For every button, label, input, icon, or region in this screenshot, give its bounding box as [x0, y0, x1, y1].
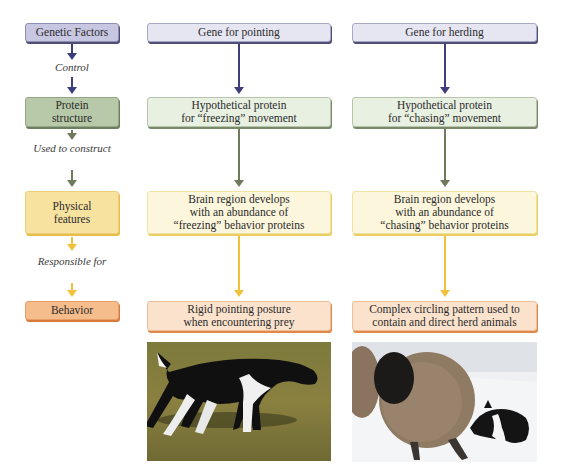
protein-freezing-line2: for “freezing” movement: [181, 112, 297, 125]
gene-pointing-box: Gene for pointing: [147, 23, 331, 42]
arrow-down-icon: [238, 44, 240, 92]
arrow-down-icon: [71, 77, 73, 92]
pointing-behavior-line2: when encountering prey: [183, 316, 294, 329]
pointing-dog-photo: [147, 342, 331, 461]
arrow-down-icon: [444, 44, 446, 92]
protein-structure-box: Protein structure: [25, 97, 119, 127]
herding-behavior-line2: contain and direct herd animals: [372, 316, 516, 329]
protein-chasing-line1: Hypothetical protein: [397, 99, 492, 112]
genetic-factors-box: Genetic Factors: [25, 23, 119, 42]
protein-chasing-line2: for “chasing” movement: [388, 112, 501, 125]
connector-responsible-for: Responsible for: [35, 255, 109, 268]
protein-structure-label: Protein structure: [42, 99, 102, 125]
brain-chasing-line1: Brain region develops: [394, 193, 496, 206]
physical-features-label: Physical features: [42, 200, 102, 226]
brain-region-chasing-box: Brain region develops with an abundance …: [352, 191, 537, 234]
brain-freezing-line3: “freezing” behavior proteins: [174, 219, 305, 232]
arrow-down-icon: [71, 44, 73, 58]
arrow-down-icon: [71, 130, 73, 138]
behavior-label: Behavior: [51, 304, 93, 317]
brain-freezing-line2: with an abundance of: [190, 206, 289, 219]
protein-freezing-line1: Hypothetical protein: [192, 99, 287, 112]
gene-herding-box: Gene for herding: [352, 23, 537, 42]
pointing-behavior-box: Rigid pointing posture when encountering…: [147, 301, 331, 331]
arrow-down-icon: [71, 170, 73, 185]
behavior-box: Behavior: [25, 301, 119, 320]
protein-freezing-box: Hypothetical protein for “freezing” move…: [147, 97, 331, 127]
herding-dog-photo: [352, 342, 537, 462]
arrow-down-icon: [238, 236, 240, 295]
brain-region-freezing-box: Brain region develops with an abundance …: [147, 191, 331, 234]
protein-chasing-box: Hypothetical protein for “chasing” movem…: [352, 97, 537, 127]
connector-control: Control: [25, 61, 119, 74]
arrow-down-icon: [444, 129, 446, 185]
connector-used-to-construct: Used to construct: [30, 142, 114, 155]
brain-freezing-line1: Brain region develops: [188, 193, 290, 206]
brain-chasing-line2: with an abundance of: [395, 206, 494, 219]
gene-herding-label: Gene for herding: [405, 26, 484, 39]
herding-dog-image: [352, 342, 537, 462]
genetic-factors-label: Genetic Factors: [36, 26, 109, 39]
pointing-dog-image: [147, 342, 331, 461]
physical-features-box: Physical features: [25, 191, 119, 234]
arrow-down-icon: [444, 236, 446, 295]
brain-chasing-line3: “chasing” behavior proteins: [380, 219, 508, 232]
herding-behavior-box: Complex circling pattern used to contain…: [352, 301, 537, 331]
arrow-down-icon: [71, 283, 73, 295]
arrow-down-icon: [71, 237, 73, 249]
herding-behavior-line1: Complex circling pattern used to: [369, 303, 520, 316]
gene-pointing-label: Gene for pointing: [198, 26, 280, 39]
pointing-behavior-line1: Rigid pointing posture: [187, 303, 291, 316]
arrow-down-icon: [238, 129, 240, 185]
